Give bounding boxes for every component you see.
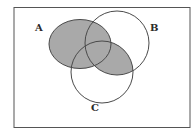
label-c: C (91, 102, 99, 113)
label-b: B (150, 22, 158, 33)
venn-diagram: A B C (0, 0, 196, 135)
label-a: A (34, 22, 43, 33)
